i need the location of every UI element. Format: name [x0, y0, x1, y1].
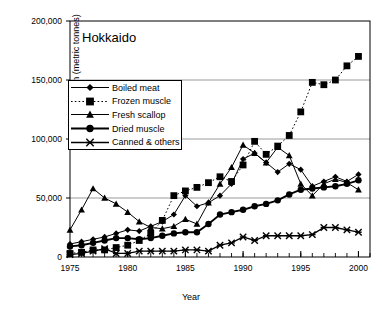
legend-item: Boiled meat	[69, 81, 181, 95]
x-tick-label: 1995	[281, 263, 321, 273]
legend-marker-circle-icon	[69, 122, 111, 135]
legend-item: Canned & others	[69, 135, 181, 149]
x-tick-label: 1975	[50, 263, 90, 273]
x-tick-label: 1990	[223, 263, 263, 273]
legend-item: Dried muscle	[69, 122, 181, 136]
series-boiled-meat	[67, 150, 362, 247]
chart-legend: Boiled meatFrozen muscleFresh scallopDri…	[68, 80, 182, 150]
legend-marker-diamond-icon	[69, 81, 111, 94]
legend-marker-cross-icon	[69, 136, 111, 149]
legend-label: Frozen muscle	[111, 96, 171, 106]
chart-container: Production (metric tonnes) Year 050,0001…	[0, 0, 382, 316]
legend-item: Fresh scallop	[69, 108, 181, 122]
legend-label: Fresh scallop	[111, 110, 166, 120]
legend-marker-triangle-icon	[69, 108, 111, 121]
legend-label: Boiled meat	[111, 83, 160, 93]
x-tick-label: 2000	[338, 263, 378, 273]
legend-marker-square-icon	[69, 95, 111, 108]
x-tick-label: 1980	[108, 263, 148, 273]
legend-item: Frozen muscle	[69, 95, 181, 109]
x-tick-label: 1985	[165, 263, 205, 273]
legend-label: Dried muscle	[111, 124, 165, 134]
series-dried-muscle	[67, 177, 362, 249]
series-canned-others	[67, 224, 362, 258]
legend-label: Canned & others	[111, 137, 180, 147]
